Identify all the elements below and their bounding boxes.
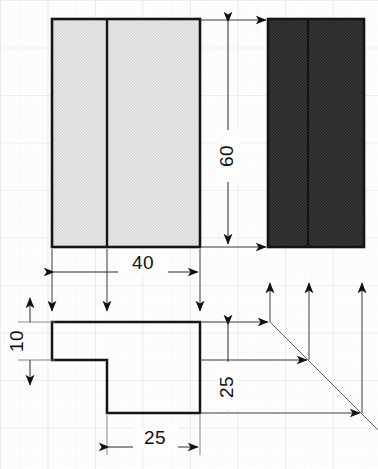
technical-drawing-canvas: 60 40 10 25 (0, 0, 378, 469)
dimension-10-label: 10 (6, 330, 27, 352)
side-view (268, 19, 364, 247)
orthographic-drawing: 60 40 10 25 (0, 0, 378, 469)
side-view-body (268, 19, 364, 247)
dimension-25h-label: 25 (144, 427, 166, 448)
front-view (52, 19, 200, 247)
dimension-60-label: 60 (216, 145, 237, 167)
front-view-body (52, 19, 200, 247)
dimension-25v-label: 25 (216, 376, 237, 398)
dimension-40-label: 40 (132, 252, 154, 273)
